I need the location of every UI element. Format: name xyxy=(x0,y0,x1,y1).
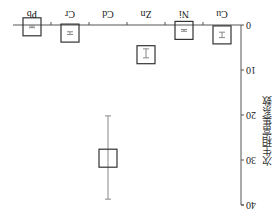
plot-area: 010203040CuNiZnCdCrPb xyxy=(0,0,280,224)
x-tick-label: Ni xyxy=(179,9,189,20)
y-tick-label: 20 xyxy=(246,110,256,121)
boxplot-chart: 010203040CuNiZnCdCrPb 次生相富集系数 xyxy=(0,0,280,224)
x-tick-label: Cd xyxy=(102,9,114,20)
x-tick-label: Cu xyxy=(216,9,228,20)
x-tick-label: Cr xyxy=(64,9,75,20)
y-tick-label: 30 xyxy=(246,155,256,166)
y-tick-label: 40 xyxy=(246,200,256,211)
y-tick-label: 10 xyxy=(246,65,256,76)
x-tick-label: Zn xyxy=(140,9,151,20)
y-tick-label: 0 xyxy=(246,20,251,31)
y-axis-label: 次生相富集系数 xyxy=(262,56,276,166)
